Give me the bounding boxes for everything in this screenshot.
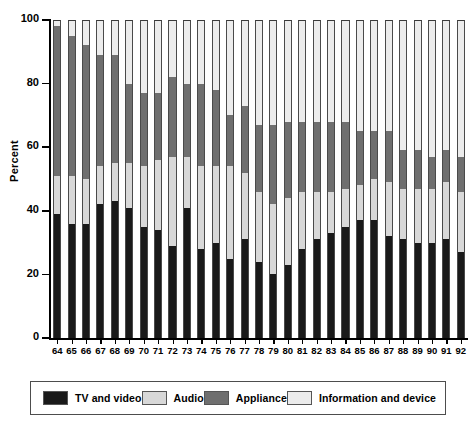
bar-segment xyxy=(154,230,162,338)
bar-segment xyxy=(284,20,292,122)
bar-segment xyxy=(341,122,349,189)
x-axis-tick-label: 78 xyxy=(254,345,265,356)
bar-segment xyxy=(284,265,292,338)
bar-segment xyxy=(298,249,306,338)
x-axis-tick-label: 67 xyxy=(95,345,106,356)
bar-segment xyxy=(313,239,321,338)
chart-plot-area: Percent 020406080100 6465666768697071727… xyxy=(0,0,476,370)
bar-segment xyxy=(313,20,321,122)
bar-segment xyxy=(140,93,148,166)
bar-segment xyxy=(298,20,306,122)
bar-column xyxy=(341,20,349,338)
x-axis-tick-label: 87 xyxy=(383,345,394,356)
bar-segment xyxy=(399,20,407,150)
x-axis-tick xyxy=(259,339,260,344)
bar-column xyxy=(125,20,133,338)
bar-column xyxy=(68,20,76,338)
bar-column xyxy=(241,20,249,338)
x-axis-tick xyxy=(187,339,188,344)
legend-item: Information and device xyxy=(287,391,436,405)
bar-segment xyxy=(168,157,176,246)
x-axis-tick xyxy=(288,339,289,344)
bar-segment xyxy=(183,20,191,84)
bar-segment xyxy=(269,125,277,205)
bar-segment xyxy=(197,20,205,84)
bar-segment xyxy=(96,166,104,204)
x-axis-tick-label: 80 xyxy=(283,345,294,356)
bar-segment xyxy=(428,243,436,338)
bar-segment xyxy=(269,274,277,338)
y-axis-tick-label: 0 xyxy=(33,330,39,342)
bar-segment xyxy=(327,233,335,338)
bar-segment xyxy=(313,122,321,192)
bar-segment xyxy=(356,131,364,185)
x-axis-tick xyxy=(115,339,116,344)
bar-segment xyxy=(414,20,422,150)
x-axis-tick-label: 66 xyxy=(81,345,92,356)
y-axis-tick: 0 xyxy=(42,337,50,339)
bar-segment xyxy=(370,131,378,179)
bar-column xyxy=(212,20,220,338)
bar-column xyxy=(111,20,119,338)
bar-segment xyxy=(327,122,335,192)
x-axis-tick xyxy=(374,339,375,344)
bar-column xyxy=(298,20,306,338)
bar-segment xyxy=(68,176,76,224)
bar-segment xyxy=(370,20,378,131)
bar-segment xyxy=(399,239,407,338)
bar-column xyxy=(414,20,422,338)
x-axis-tick-label: 79 xyxy=(268,345,279,356)
bar-segment xyxy=(385,236,393,338)
bar-segment xyxy=(96,204,104,338)
x-axis-tick-label: 91 xyxy=(441,345,452,356)
x-axis-tick-label: 77 xyxy=(239,345,250,356)
bar-segment xyxy=(140,166,148,226)
bar-segment xyxy=(53,176,61,214)
y-axis-tick-label: 80 xyxy=(27,76,39,88)
x-axis-tick-label: 76 xyxy=(225,345,236,356)
bar-column xyxy=(183,20,191,338)
bar-segment xyxy=(356,20,364,131)
bar-segment xyxy=(269,204,277,274)
bar-segment xyxy=(414,150,422,188)
x-axis-tick-label: 68 xyxy=(110,345,121,356)
bar-column xyxy=(428,20,436,338)
bar-segment xyxy=(111,201,119,338)
bar-segment xyxy=(399,150,407,188)
x-axis-tick xyxy=(245,339,246,344)
bar-segment xyxy=(53,26,61,175)
x-axis-tick xyxy=(446,339,447,344)
bar-segment xyxy=(428,157,436,189)
bar-segment xyxy=(96,20,104,55)
y-axis-tick: 80 xyxy=(42,83,50,85)
bar-segment xyxy=(53,214,61,338)
x-axis-tick xyxy=(129,339,130,344)
bar-segment xyxy=(457,252,465,338)
bar-segment xyxy=(414,243,422,338)
x-axis-tick xyxy=(57,339,58,344)
bar-column xyxy=(399,20,407,338)
x-axis-tick xyxy=(331,339,332,344)
bar-segment xyxy=(125,20,133,84)
x-axis-tick-label: 86 xyxy=(369,345,380,356)
bar-segment xyxy=(457,192,465,252)
y-axis-title: Percent xyxy=(8,126,20,196)
chart-figure: Percent 020406080100 6465666768697071727… xyxy=(0,0,476,431)
x-axis-tick xyxy=(100,339,101,344)
bar-segment xyxy=(197,249,205,338)
bar-segment xyxy=(370,220,378,338)
y-axis-tick-label: 100 xyxy=(21,12,39,24)
bar-segment xyxy=(226,166,234,258)
bar-column xyxy=(53,20,61,338)
x-axis-tick-label: 75 xyxy=(210,345,221,356)
x-axis-tick xyxy=(158,339,159,344)
x-axis-tick xyxy=(389,339,390,344)
bar-segment xyxy=(226,259,234,339)
x-axis-tick-label: 73 xyxy=(182,345,193,356)
bar-segment xyxy=(255,192,263,262)
x-axis-tick xyxy=(432,339,433,344)
bar-segment xyxy=(154,93,162,160)
legend-label: TV and video xyxy=(75,392,142,404)
bars-container xyxy=(50,20,468,338)
bar-segment xyxy=(82,224,90,338)
